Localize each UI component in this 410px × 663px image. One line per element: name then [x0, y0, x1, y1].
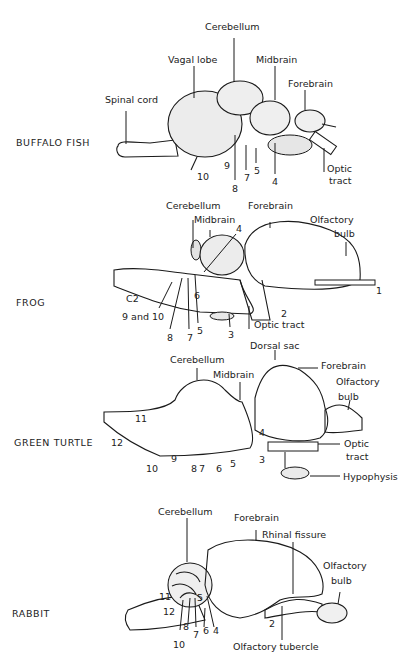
nerve-number-3: 3 [228, 329, 234, 340]
nerve-number-9: 9 [224, 160, 230, 171]
species-label-green-turtle: GREEN TURTLE [14, 437, 93, 448]
label-optic-tract-line1: Optic [327, 163, 352, 174]
label-midbrain: Midbrain [194, 214, 235, 225]
label-rhinal-fissure: Rhinal fissure [262, 529, 326, 540]
label-cerebellum: Cerebellum [166, 200, 220, 211]
label-olfactory-bulb-line1: Olfactory [310, 214, 354, 225]
nerve-number-6: 6 [216, 463, 222, 474]
nerve-number-6: 6 [194, 290, 200, 301]
label-forebrain: Forebrain [248, 200, 293, 211]
nerve-number-5: 5 [197, 592, 203, 603]
nerve-number-11: 11 [135, 413, 147, 424]
label-midbrain: Midbrain [213, 369, 254, 380]
label-optic-tract-line2: tract [346, 451, 368, 462]
label-olfactory-bulb-line1: Olfactory [336, 376, 380, 387]
label-olfactory-bulb-line1: Olfactory [323, 560, 367, 571]
nerve-number-4: 4 [236, 223, 242, 234]
nerve-number-4: 4 [259, 427, 265, 438]
label-forebrain: Forebrain [321, 360, 366, 371]
nerve-number-10: 10 [173, 639, 185, 650]
species-label-frog: FROG [16, 297, 45, 308]
label-midbrain: Midbrain [256, 54, 297, 65]
label-optic-tract-line2: tract [329, 175, 351, 186]
label-nerve-9-and-10: 9 and 10 [122, 311, 164, 322]
nerve-number-7: 7 [199, 463, 205, 474]
label-c2: C2 [126, 293, 139, 304]
nerve-number-5: 5 [197, 325, 203, 336]
nerve-number-3: 3 [259, 454, 265, 465]
nerve-number-2: 2 [281, 308, 287, 319]
nerve-number-5: 5 [254, 165, 260, 176]
nerve-number-9: 9 [171, 453, 177, 464]
panel-rabbit: RABBIT Cerebellum Forebrain Rhinal fissu… [0, 490, 410, 663]
label-forebrain: Forebrain [288, 78, 333, 89]
label-olfactory-tubercle: Olfactory tubercle [233, 641, 319, 652]
label-cerebellum: Cerebellum [205, 21, 259, 32]
label-cerebellum: Cerebellum [158, 506, 212, 517]
label-optic-tract-line1: Optic [344, 438, 369, 449]
nerve-number-2: 2 [269, 618, 275, 629]
nerve-number-10: 10 [146, 463, 158, 474]
label-cerebellum: Cerebellum [170, 354, 224, 365]
nerve-number-4: 4 [272, 176, 278, 187]
panel-green-turtle: GREEN TURTLE Dorsal sac Cerebellum Midbr… [0, 340, 410, 490]
label-vagal-lobe: Vagal lobe [168, 54, 217, 65]
nerve-number-12: 12 [111, 437, 123, 448]
label-olfactory-bulb-line2: bulb [338, 391, 359, 402]
species-label-buffalo-fish: BUFFALO FISH [16, 137, 90, 148]
nerve-number-8: 8 [183, 621, 189, 632]
nerve-number-12: 12 [163, 606, 175, 617]
panel-frog: FROG Cerebellum Forebrain Midbrain Olfac… [0, 190, 410, 340]
label-optic-tract: Optic tract [254, 319, 305, 330]
nerve-number-7: 7 [193, 629, 199, 640]
label-hypophysis: Hypophysis [343, 471, 398, 482]
label-forebrain: Forebrain [234, 512, 279, 523]
nerve-number-4: 4 [213, 625, 219, 636]
nerve-number-11: 11 [159, 591, 171, 602]
nerve-number-8: 8 [191, 463, 197, 474]
nerve-number-6: 6 [203, 625, 209, 636]
label-olfactory-bulb-line2: bulb [331, 575, 352, 586]
nerve-number-1: 1 [376, 285, 382, 296]
nerve-number-5: 5 [230, 458, 236, 469]
label-spinal-cord: Spinal cord [105, 94, 158, 105]
species-label-rabbit: RABBIT [12, 608, 50, 619]
nerve-number-10: 10 [197, 171, 209, 182]
frog-brain-drawing [0, 190, 410, 340]
panel-buffalo-fish: BUFFALO FISH Cerebellum Vagal lobe Midbr… [0, 0, 410, 200]
label-dorsal-sac: Dorsal sac [250, 340, 299, 351]
nerve-number-7: 7 [244, 172, 250, 183]
label-olfactory-bulb-line2: bulb [334, 228, 355, 239]
